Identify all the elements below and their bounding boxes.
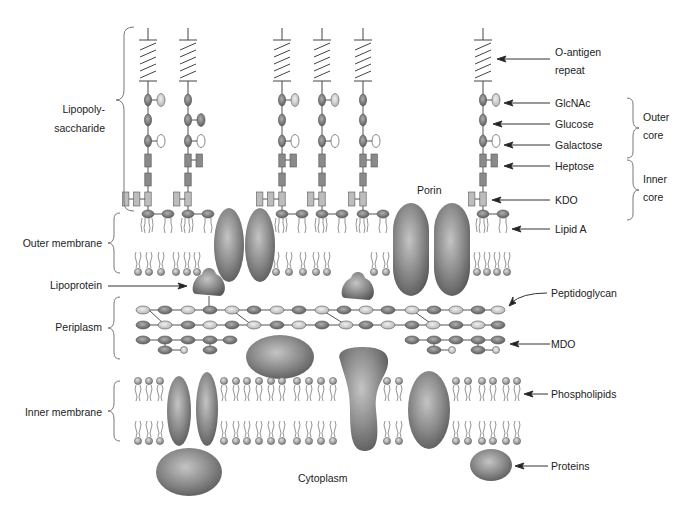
porin-left: [393, 203, 429, 296]
inner-membrane-protein-2: [196, 372, 218, 446]
brace-outer-membrane: [108, 213, 120, 273]
label-glcnac: GlcNAc: [555, 97, 591, 110]
label-lipopolysaccharide-2: saccharide: [44, 122, 105, 135]
label-proteins: Proteins: [551, 460, 590, 473]
label-cytoplasm: Cytoplasm: [298, 472, 348, 485]
label-o-antigen-2: repeat: [555, 64, 585, 77]
left-braces: [108, 27, 134, 441]
peptidoglycan: [136, 306, 505, 329]
lps-chain-6: [469, 28, 501, 210]
label-lipid-a: Lipid A: [555, 223, 587, 236]
label-mdo: MDO: [551, 338, 576, 351]
label-inner-membrane: Inner membrane: [10, 406, 102, 419]
label-outer-membrane: Outer membrane: [10, 237, 102, 250]
label-inner-core-2: core: [643, 191, 663, 204]
label-lipopolysaccharide-1: Lipopoly-: [44, 103, 105, 116]
periplasmic-protein: [246, 335, 314, 379]
outer-membrane-protein-2: [245, 208, 275, 282]
inner-membrane-channel-protein: [339, 347, 388, 451]
cell-envelope-diagram: Lipopoly- saccharide Outer membrane Lipo…: [0, 0, 691, 510]
brace-lps: [116, 27, 134, 211]
label-outer-core-2: core: [643, 129, 663, 142]
label-periplasm: Periplasm: [10, 321, 102, 334]
label-heptose: Heptose: [555, 160, 594, 173]
right-braces: [627, 98, 639, 220]
inner-membrane-phospholipids: [134, 377, 520, 444]
inner-membrane-protein-3: [408, 371, 450, 449]
outer-membrane-protein-1: [214, 208, 244, 282]
brace-inner-core: [627, 160, 639, 220]
label-galactose: Galactose: [555, 139, 602, 152]
lipoprotein-right: [342, 272, 374, 300]
cytoplasmic-protein-right: [470, 449, 512, 481]
mdo-right: [405, 336, 505, 354]
label-inner-core-1: Inner: [643, 173, 667, 186]
diagram-canvas: [0, 0, 691, 510]
lps-chain-1: [123, 28, 166, 210]
lps-chain-4: [308, 28, 340, 210]
label-peptidoglycan: Peptidoglycan: [551, 287, 617, 300]
label-o-antigen-1: O-antigen: [555, 46, 601, 59]
porin-right: [434, 203, 470, 296]
lps-chain-5: [349, 28, 381, 210]
brace-inner-membrane: [108, 381, 120, 441]
label-porin: Porin: [417, 184, 442, 197]
label-glucose: Glucose: [555, 118, 594, 131]
lps-chain-3: [257, 28, 300, 210]
mdo-left: [136, 336, 237, 354]
label-lipoprotein: Lipoprotein: [10, 279, 102, 292]
brace-periplasm: [108, 297, 120, 359]
inner-membrane-protein-1: [167, 376, 191, 446]
outer-membrane: [134, 203, 510, 310]
label-phospholipids: Phospholipids: [551, 388, 616, 401]
label-kdo: KDO: [555, 194, 578, 207]
label-outer-core-1: Outer: [643, 111, 669, 124]
brace-outer-core: [627, 98, 639, 158]
cytoplasmic-protein-left: [156, 448, 222, 496]
lps-chain-2: [174, 28, 206, 210]
